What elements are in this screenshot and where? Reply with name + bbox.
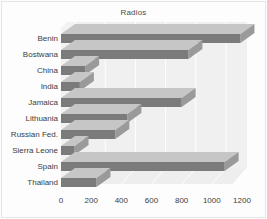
- bar-top-face: [61, 152, 239, 162]
- x-tick-label-200: 200: [84, 196, 97, 205]
- bars-layer: [0, 0, 267, 219]
- x-tick-label-1200: 1200: [233, 196, 251, 205]
- x-tick-label-1000: 1000: [203, 196, 221, 205]
- bar-russian-fed: [61, 120, 129, 139]
- bar-front-face: [61, 146, 75, 155]
- bar-top-face: [61, 88, 196, 98]
- x-tick-label-600: 600: [145, 196, 158, 205]
- x-tick-label-800: 800: [175, 196, 188, 205]
- chart-container: Radios: [0, 0, 267, 219]
- bar-front-face: [61, 178, 96, 187]
- bar-top-face: [61, 104, 141, 114]
- x-axis-tick-labels: 020040060080010001200: [0, 196, 267, 210]
- bar-top-face: [61, 40, 202, 50]
- x-tick-label-400: 400: [115, 196, 128, 205]
- bar-top-face: [61, 24, 254, 34]
- x-tick-label-0: 0: [59, 196, 63, 205]
